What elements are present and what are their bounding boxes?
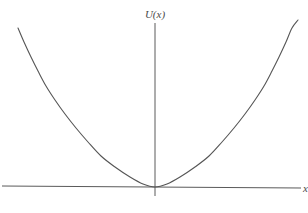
plot-canvas (0, 0, 308, 213)
plot-background (0, 0, 308, 213)
y-axis-label: U(x) (145, 9, 165, 20)
potential-energy-figure: U(x) x (0, 0, 308, 213)
x-axis-label: x (303, 183, 308, 194)
